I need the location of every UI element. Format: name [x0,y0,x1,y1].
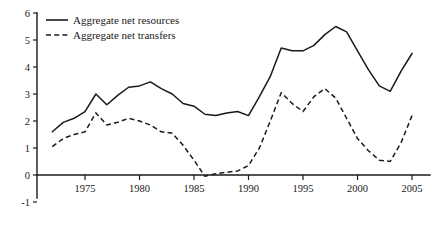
series-group [52,27,412,177]
x-tick-label: 1990 [238,183,259,194]
y-tick-label: 4 [25,62,31,73]
y-tick-label: 0 [25,170,30,181]
y-tick-label: 5 [25,35,30,46]
chart-legend: Aggregate net resourcesAggregate net tra… [46,14,179,41]
x-tick-label: 2000 [347,183,368,194]
x-tick-label: 1980 [129,183,150,194]
x-tick-label: 1995 [293,183,314,194]
y-tick-label: 1 [25,143,30,154]
chart-page: -10123456 1975198019851990199520002005 A… [0,0,434,230]
x-tick-label: 1975 [75,183,96,194]
series-dashed [52,89,412,177]
x-tick-label: 2005 [402,183,423,194]
legend-label: Aggregate net transfers [73,29,176,41]
y-tick-label: 2 [25,116,30,127]
line-chart: -10123456 1975198019851990199520002005 A… [0,0,434,230]
y-tick-label: -1 [21,197,30,208]
y-axis: -10123456 [21,8,37,208]
legend-label: Aggregate net resources [73,14,179,26]
series-solid [52,27,412,132]
x-axis: 1975198019851990199520002005 [37,175,430,194]
y-tick-label: 3 [25,89,30,100]
x-tick-label: 1985 [184,183,205,194]
y-tick-label: 6 [25,8,30,19]
